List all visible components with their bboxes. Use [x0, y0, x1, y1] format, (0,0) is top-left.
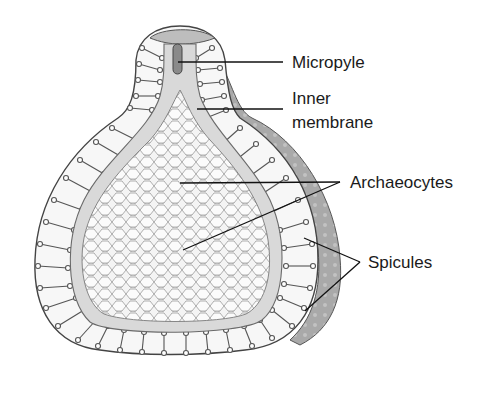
gemmule-diagram: Micropyle Inner membrane Archaeocytes Sp… — [0, 0, 499, 396]
label-micropyle: Micropyle — [292, 52, 365, 73]
label-inner-membrane-line1: Inner — [292, 88, 331, 109]
label-spicules: Spicules — [368, 252, 432, 273]
micropyle — [173, 44, 182, 74]
label-inner-membrane-line2: membrane — [292, 112, 373, 133]
label-archaeocytes: Archaeocytes — [350, 172, 453, 193]
